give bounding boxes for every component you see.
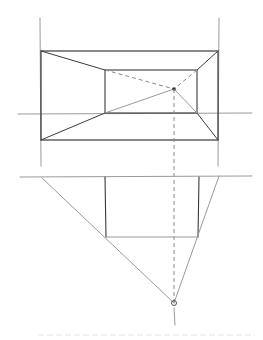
- guide-verticals: [40, 18, 219, 166]
- perspective-sketch: [0, 0, 263, 340]
- ground-line: [20, 176, 252, 177]
- bottom-view: [20, 176, 255, 335]
- outer-rect: [41, 51, 218, 140]
- inner-rect: [105, 70, 197, 113]
